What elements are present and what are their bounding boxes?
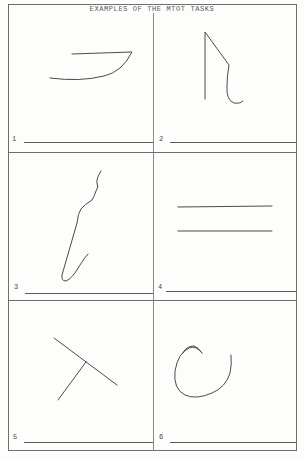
panel-number-2: 2 xyxy=(159,135,163,143)
task-panel-5: 5 xyxy=(8,301,153,451)
figure-t-shape xyxy=(8,301,153,451)
signature-line-6 xyxy=(170,442,297,443)
panel-number-4: 4 xyxy=(158,283,162,291)
figure-angled-hook xyxy=(154,4,297,152)
figure-hook-stroke xyxy=(8,4,153,152)
signature-line-1 xyxy=(24,142,153,143)
task-panel-4: 4 xyxy=(154,153,297,300)
figure-wavy-j-curve xyxy=(8,153,153,300)
task-panel-1: 1 xyxy=(8,4,153,152)
signature-line-3 xyxy=(25,293,153,294)
document-page: EXAMPLES OF THE MTOT TASKS 1 2 3 4 xyxy=(0,0,304,459)
figure-parallel-lines xyxy=(154,153,297,300)
signature-line-2 xyxy=(170,142,297,143)
task-panel-2: 2 xyxy=(154,4,297,152)
task-panel-6: 6 xyxy=(154,301,297,451)
page-title-text: EXAMPLES OF THE MTOT TASKS xyxy=(88,5,217,13)
task-panel-3: 3 xyxy=(8,153,153,300)
figure-open-circle xyxy=(154,301,297,451)
page-title: EXAMPLES OF THE MTOT TASKS xyxy=(0,5,304,13)
panel-number-3: 3 xyxy=(14,283,18,291)
panel-number-6: 6 xyxy=(159,433,163,441)
panel-number-5: 5 xyxy=(13,433,17,441)
signature-line-5 xyxy=(24,442,153,443)
panel-number-1: 1 xyxy=(12,135,16,143)
signature-line-4 xyxy=(166,291,297,292)
